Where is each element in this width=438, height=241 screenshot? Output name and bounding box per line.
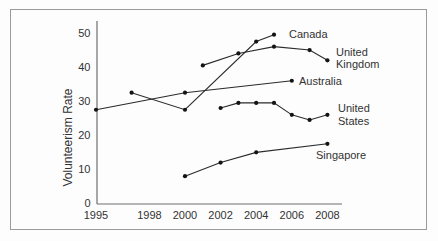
y-tick-label: 20 bbox=[78, 129, 90, 141]
data-point-united-kingdom bbox=[236, 51, 240, 55]
data-point-united-kingdom bbox=[325, 58, 329, 62]
y-tick-label: 30 bbox=[78, 95, 90, 107]
data-point-singapore bbox=[254, 150, 258, 154]
data-point-singapore bbox=[183, 174, 187, 178]
data-point-united-states bbox=[290, 113, 294, 117]
y-tick-label: 50 bbox=[78, 27, 90, 39]
data-point-australia bbox=[183, 91, 187, 95]
series-line-united-states bbox=[221, 103, 328, 120]
figure-volunteerism-rates: 010203040501995199820002002200420062008V… bbox=[0, 0, 438, 241]
x-tick-label: 2002 bbox=[208, 209, 232, 221]
data-point-singapore bbox=[325, 142, 329, 146]
y-tick-label: 0 bbox=[84, 197, 90, 209]
series-label-canada: Canada bbox=[289, 28, 328, 40]
data-point-united-states bbox=[219, 106, 223, 110]
data-point-australia bbox=[290, 79, 294, 83]
series-label-united-states: United bbox=[338, 102, 370, 114]
data-point-canada bbox=[254, 39, 258, 43]
data-point-united-states bbox=[236, 101, 240, 105]
line-chart: 010203040501995199820002002200420062008V… bbox=[0, 0, 438, 241]
series-label-australia: Australia bbox=[299, 75, 343, 87]
series-label-united-states: States bbox=[338, 115, 370, 127]
data-point-canada bbox=[183, 108, 187, 112]
y-tick-label: 40 bbox=[78, 61, 90, 73]
x-tick-label: 2008 bbox=[315, 209, 339, 221]
series-line-singapore bbox=[185, 144, 327, 176]
y-tick-label: 10 bbox=[78, 163, 90, 175]
data-point-singapore bbox=[219, 160, 223, 164]
series-label-united-kingdom: Kingdom bbox=[336, 58, 379, 70]
x-tick-label: 1995 bbox=[84, 209, 108, 221]
data-point-united-states bbox=[254, 101, 258, 105]
series-label-singapore: Singapore bbox=[316, 149, 366, 161]
y-axis-title: Volunteerism Rate bbox=[61, 88, 75, 186]
data-point-canada bbox=[272, 33, 276, 37]
x-tick-label: 1998 bbox=[137, 209, 161, 221]
data-point-australia bbox=[94, 108, 98, 112]
series-label-united-kingdom: United bbox=[336, 46, 368, 58]
data-point-united-kingdom bbox=[201, 63, 205, 67]
series-line-australia bbox=[96, 81, 292, 110]
data-point-united-kingdom bbox=[272, 45, 276, 49]
data-point-united-states bbox=[272, 101, 276, 105]
x-tick-label: 2006 bbox=[280, 209, 304, 221]
data-point-united-states bbox=[325, 113, 329, 117]
x-tick-label: 2004 bbox=[244, 209, 268, 221]
data-point-canada bbox=[130, 91, 134, 95]
x-tick-label: 2000 bbox=[173, 209, 197, 221]
data-point-united-kingdom bbox=[308, 48, 312, 52]
data-point-united-states bbox=[308, 118, 312, 122]
